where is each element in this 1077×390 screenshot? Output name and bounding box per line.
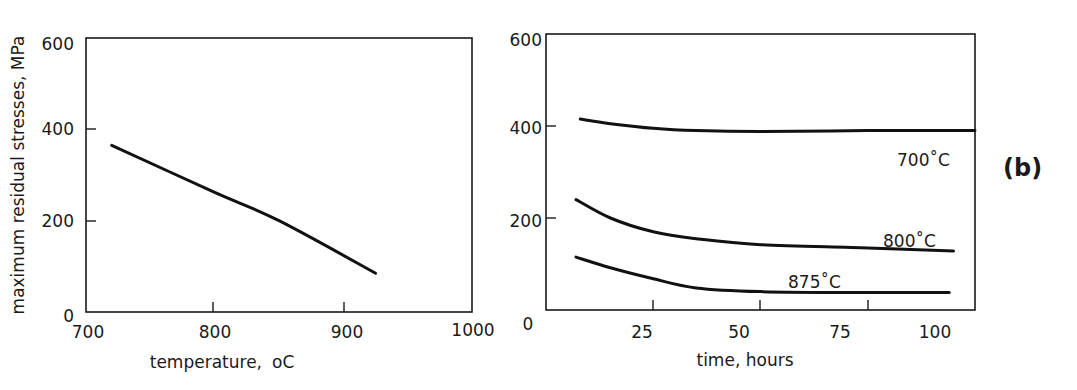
- curve-700C: [580, 119, 975, 131]
- right-ytick-label: 400: [510, 118, 542, 138]
- right-ytick-label: 200: [510, 211, 542, 231]
- panel-label: (b): [1003, 154, 1042, 182]
- left-data-line: [112, 145, 376, 273]
- left-ytick-label: 200: [42, 211, 74, 231]
- left-chart: 600 400 200 0 700 800 900 1000 temperatu…: [8, 34, 495, 372]
- left-xaxis-label: temperature,: [150, 352, 262, 372]
- left-yaxis-label: maximum residual stresses, MPa: [8, 36, 28, 315]
- figure: 600 400 200 0 700 800 900 1000 temperatu…: [0, 0, 1077, 390]
- right-xtick-label: 75: [829, 322, 851, 342]
- left-ytick-label: 400: [42, 119, 74, 139]
- left-ytick-label: 600: [42, 34, 74, 54]
- left-xtick-label: 900: [331, 322, 363, 342]
- right-xtick-label: 100: [919, 322, 951, 342]
- right-ytick-label: 600: [510, 30, 542, 50]
- right-xtick-label: 25: [631, 322, 653, 342]
- right-xaxis-label: time, hours: [696, 350, 793, 370]
- curve-label-800C: 800˚C: [883, 231, 936, 251]
- curve-label-875C: 875˚C: [788, 272, 841, 292]
- left-xaxis-unit: oC: [272, 352, 294, 372]
- left-plot-frame: [86, 38, 472, 312]
- right-chart: 600 400 200 0 25 50 75 100 time, hours 7…: [510, 30, 1043, 370]
- left-xtick-label: 800: [199, 322, 231, 342]
- curve-875C: [576, 257, 949, 292]
- curve-label-700C: 700˚C: [897, 150, 950, 170]
- left-xtick-label: 700: [72, 322, 104, 342]
- left-xtick-label: 1000: [451, 320, 494, 340]
- right-ytick-label: 0: [523, 314, 534, 334]
- right-xtick-label: 50: [728, 322, 750, 342]
